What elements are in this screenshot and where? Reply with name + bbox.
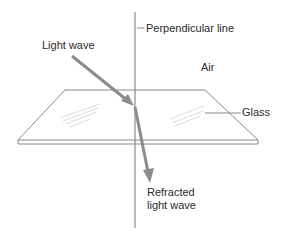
refracted-label-line1: Refracted (147, 186, 227, 199)
refracted-ray (135, 107, 154, 183)
diagram-canvas (0, 0, 286, 238)
refracted-label-line2: light wave (147, 199, 227, 212)
incident-ray (72, 56, 134, 106)
glass-hatch-left (60, 104, 100, 127)
refracted-light-wave-label: Refracted light wave (147, 186, 227, 212)
glass-hatch-right (170, 106, 204, 126)
glass-label: Glass (242, 106, 270, 119)
perpendicular-line-label: Perpendicular line (146, 22, 234, 35)
air-label: Air (201, 61, 214, 74)
refraction-diagram: Perpendicular line Light wave Air Glass … (0, 0, 286, 238)
light-wave-label: Light wave (42, 39, 95, 52)
